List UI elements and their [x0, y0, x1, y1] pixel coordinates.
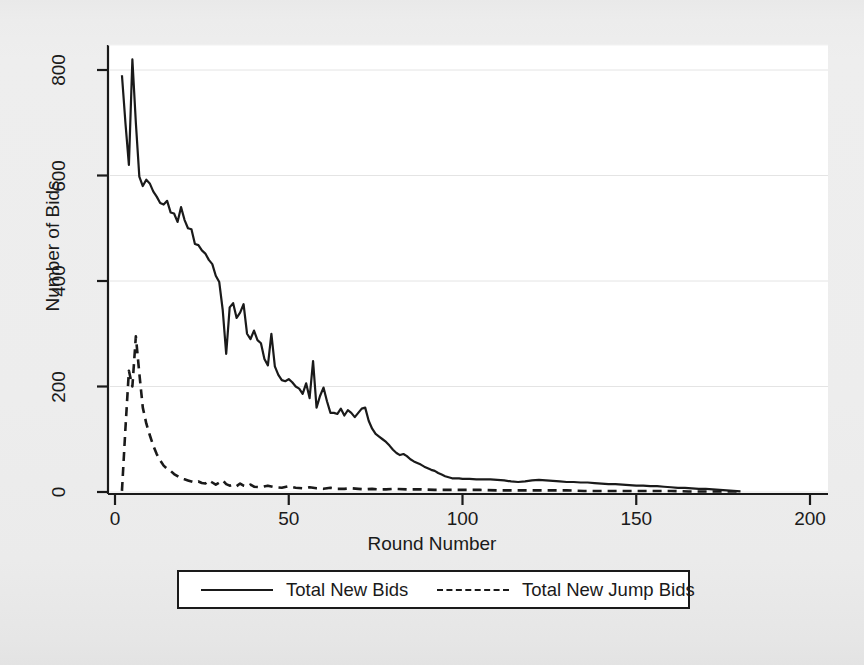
- y-tick-label: 200: [48, 357, 70, 417]
- y-tick-label: 600: [48, 146, 70, 206]
- legend-entry-total-new-bids: Total New Bids: [201, 572, 408, 607]
- x-tick-label: 0: [80, 508, 150, 530]
- x-tick-label: 200: [775, 508, 845, 530]
- chart-legend: Total New Bids Total New Jump Bids: [177, 570, 690, 609]
- legend-entry-total-new-jump-bids: Total New Jump Bids: [437, 572, 695, 607]
- x-axis-title: Round Number: [0, 533, 864, 555]
- plot-area-background: [108, 45, 828, 494]
- figure: Number of Bids Round Number 020040060080…: [0, 0, 864, 665]
- x-tick-label: 50: [254, 508, 324, 530]
- legend-line-sample-solid-icon: [201, 584, 273, 596]
- x-tick-label: 100: [428, 508, 498, 530]
- legend-line-sample-dashed-icon: [437, 584, 509, 596]
- chart-canvas: [0, 0, 864, 665]
- y-tick-label: 0: [48, 462, 70, 522]
- y-tick-label: 400: [48, 251, 70, 311]
- legend-label-0: Total New Bids: [286, 579, 408, 601]
- x-tick-label: 150: [601, 508, 671, 530]
- y-tick-label: 800: [48, 40, 70, 100]
- legend-label-1: Total New Jump Bids: [522, 579, 695, 601]
